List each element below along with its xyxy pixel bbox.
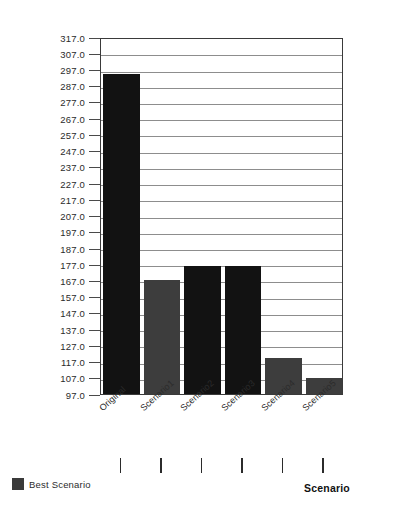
x-axis-title: Scenario [304, 482, 350, 494]
y-axis-tick: 167.0 [60, 275, 100, 287]
y-axis-tick-label: 127.0 [60, 341, 85, 352]
y-axis-tick-mark [89, 135, 100, 136]
y-axis-tick: 287.0 [60, 81, 100, 93]
y-axis-tick-label: 187.0 [60, 244, 85, 255]
y-axis-tick: 217.0 [60, 194, 100, 206]
y-axis-tick: 107.0 [60, 373, 100, 385]
y-axis-tick-mark [89, 346, 100, 347]
y-axis-tick-label: 147.0 [60, 308, 85, 319]
y-axis-tick-mark [89, 232, 100, 233]
y-axis-tick-mark [89, 184, 100, 185]
y-axis-tick: 97.0 [66, 389, 100, 401]
y-axis-tick-label: 177.0 [60, 260, 85, 271]
y-axis: 317.0307.0297.0287.0277.0267.0257.0247.0… [0, 0, 100, 520]
x-axis-tick-mark [241, 458, 243, 473]
y-axis-tick-label: 207.0 [60, 211, 85, 222]
x-axis-tick-mark [201, 458, 203, 473]
bar-chart-figure: 317.0307.0297.0287.0277.0267.0257.0247.0… [0, 0, 395, 520]
y-axis-tick-mark [89, 378, 100, 379]
y-axis-tick-label: 297.0 [60, 65, 85, 76]
y-axis-tick-label: 257.0 [60, 130, 85, 141]
x-axis-tick-mark [120, 458, 122, 473]
y-axis-tick-label: 317.0 [60, 33, 85, 44]
y-axis-tick: 257.0 [60, 129, 100, 141]
y-axis-tick: 197.0 [60, 227, 100, 239]
y-axis-tick-label: 277.0 [60, 97, 85, 108]
y-axis-tick-mark [89, 86, 100, 87]
y-axis-tick: 227.0 [60, 178, 100, 190]
x-axis-tick-mark [160, 458, 162, 473]
bar-scenario3 [225, 266, 262, 394]
y-axis-tick-label: 107.0 [60, 373, 85, 384]
y-axis-tick-mark [89, 167, 100, 168]
y-axis-tick-mark [89, 297, 100, 298]
y-axis-tick: 177.0 [60, 259, 100, 271]
y-axis-tick-mark [89, 216, 100, 217]
y-axis-tick-label: 247.0 [60, 146, 85, 157]
bar-scenario1 [144, 280, 181, 394]
chart-legend: Best Scenario [12, 478, 91, 490]
y-axis-tick-label: 237.0 [60, 162, 85, 173]
x-axis: OriginalScenario1Scenario2Scenario3Scena… [100, 395, 343, 520]
y-axis-tick-mark [89, 119, 100, 120]
bars-layer [101, 39, 342, 394]
y-axis-tick-mark [89, 38, 100, 39]
legend-swatch-best-scenario [12, 478, 24, 490]
y-axis-tick-mark [89, 395, 100, 396]
y-axis-tick-label: 137.0 [60, 325, 85, 336]
y-axis-tick: 187.0 [60, 243, 100, 255]
y-axis-tick-mark [89, 200, 100, 201]
x-axis-tick-mark [322, 458, 324, 473]
y-axis-tick-label: 157.0 [60, 292, 85, 303]
y-axis-tick-label: 287.0 [60, 81, 85, 92]
y-axis-tick: 307.0 [60, 48, 100, 60]
y-axis-tick-label: 97.0 [66, 390, 85, 401]
y-axis-tick-mark [89, 265, 100, 266]
y-axis-tick: 277.0 [60, 97, 100, 109]
bar-original [103, 74, 140, 394]
y-axis-tick: 117.0 [61, 357, 100, 369]
legend-label-best-scenario: Best Scenario [29, 479, 91, 490]
y-axis-tick: 147.0 [60, 308, 100, 320]
y-axis-tick-label: 227.0 [60, 179, 85, 190]
y-axis-tick-mark [89, 281, 100, 282]
y-axis-tick-mark [89, 102, 100, 103]
y-axis-tick-label: 197.0 [60, 227, 85, 238]
y-axis-tick-mark [89, 362, 100, 363]
y-axis-tick-label: 307.0 [60, 49, 85, 60]
y-axis-tick-label: 267.0 [60, 114, 85, 125]
y-axis-tick: 207.0 [60, 211, 100, 223]
y-axis-tick: 127.0 [60, 340, 100, 352]
plot-area [100, 38, 343, 395]
y-axis-tick: 237.0 [60, 162, 100, 174]
y-axis-tick: 137.0 [60, 324, 100, 336]
y-axis-tick-label: 217.0 [60, 195, 85, 206]
y-axis-tick: 267.0 [60, 113, 100, 125]
y-axis-tick-mark [89, 313, 100, 314]
x-axis-tick-mark [282, 458, 284, 473]
y-axis-tick-mark [89, 54, 100, 55]
y-axis-tick-mark [89, 151, 100, 152]
y-axis-tick-mark [89, 249, 100, 250]
y-axis-tick-label: 117.0 [61, 357, 85, 368]
y-axis-tick: 297.0 [60, 65, 100, 77]
y-axis-tick: 157.0 [60, 292, 100, 304]
y-axis-tick: 317.0 [60, 32, 100, 44]
y-axis-tick-mark [89, 70, 100, 71]
bar-scenario2 [184, 266, 221, 394]
y-axis-tick-label: 167.0 [60, 276, 85, 287]
y-axis-tick-mark [89, 330, 100, 331]
y-axis-tick: 247.0 [60, 146, 100, 158]
